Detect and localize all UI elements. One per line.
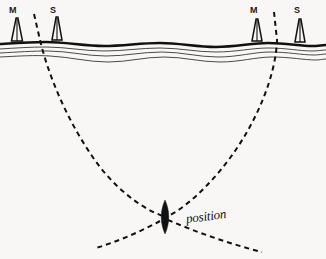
station-towers-group <box>12 17 306 42</box>
coastline-group <box>0 42 326 62</box>
navigation-fix-figure: M S M S position <box>0 0 326 259</box>
station-label-left-master: M <box>9 6 17 15</box>
water-contour-line-3 <box>0 56 326 62</box>
hyperbolic-line-right-position-line-extension <box>96 221 160 248</box>
station-label-right-slave: S <box>294 6 300 15</box>
hyperbolic-line-left-position-line-extension <box>168 220 262 252</box>
position-fix-marker <box>161 200 169 234</box>
station-label-right-master: M <box>250 6 258 15</box>
station-label-left-slave: S <box>50 6 56 15</box>
figure-canvas <box>0 0 326 259</box>
